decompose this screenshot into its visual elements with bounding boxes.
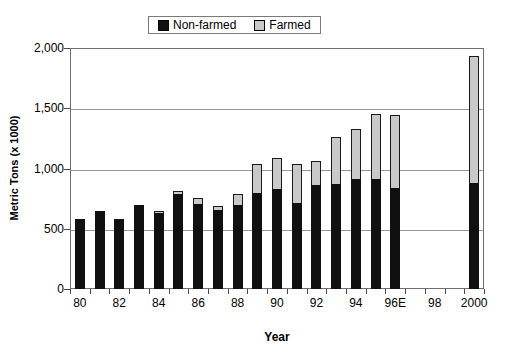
bar-81 [95, 211, 105, 289]
bar-92 [311, 161, 321, 289]
bar-segment-farmed-88 [233, 194, 243, 204]
chart-legend: Non-farmed Farmed [148, 16, 321, 34]
bar-90 [272, 158, 282, 289]
bar-segment-farmed-95 [371, 114, 381, 179]
bar-82 [114, 219, 124, 289]
bar-segment-non-farmed-86 [193, 204, 203, 289]
x-tick-mark-8 [228, 289, 229, 294]
bars-layer [70, 48, 484, 289]
x-tick-mark-15 [366, 289, 367, 294]
bar-segment-non-farmed-87 [213, 210, 223, 289]
bar-91 [292, 164, 302, 289]
x-tick-mark-9 [247, 289, 248, 294]
bar-94 [351, 129, 361, 289]
x-tick-mark-6 [188, 289, 189, 294]
bar-segment-non-farmed-95 [371, 179, 381, 289]
bar-84 [154, 211, 164, 289]
bar-segment-non-farmed-85 [173, 194, 183, 289]
x-tick-mark-3 [129, 289, 130, 294]
bar-80 [75, 219, 85, 289]
x-tick-label-80: 80 [73, 297, 86, 310]
x-tick-mark-12 [307, 289, 308, 294]
bar-segment-farmed-94 [351, 129, 361, 180]
legend-entry-non-farmed: Non-farmed [158, 19, 236, 31]
light-gray-square-icon [254, 20, 265, 31]
bar-segment-non-farmed-93 [331, 184, 341, 289]
bar-segment-farmed-90 [272, 158, 282, 189]
bar-segment-farmed-93 [331, 137, 341, 184]
bar-96E [390, 115, 400, 289]
legend-label-farmed: Farmed [269, 19, 310, 31]
y-tick-label-500: 500 [6, 223, 64, 235]
y-tick-label-0: 0 [6, 283, 64, 295]
x-tick-mark-1 [90, 289, 91, 294]
x-tick-mark-7 [208, 289, 209, 294]
y-tick-mark-1500 [64, 108, 70, 109]
bar-83 [134, 205, 144, 289]
x-axis-title: Year [264, 330, 289, 344]
stacked-bar-chart: Non-farmed Farmed 05001,0001,5002,000 Me… [0, 0, 506, 359]
x-tick-label-92: 92 [310, 297, 323, 310]
bar-segment-farmed-96E [390, 115, 400, 187]
y-tick-mark-500 [64, 229, 70, 230]
bar-segment-non-farmed-89 [252, 193, 262, 289]
bar-segment-non-farmed-90 [272, 189, 282, 289]
bar-segment-non-farmed-92 [311, 185, 321, 289]
bar-95 [371, 114, 381, 289]
bar-85 [173, 191, 183, 289]
bar-86 [193, 198, 203, 289]
bar-segment-farmed-2000 [469, 56, 479, 183]
black-square-icon [158, 20, 169, 31]
x-tick-mark-10 [267, 289, 268, 294]
bar-segment-non-farmed-91 [292, 203, 302, 289]
x-tick-mark-19 [445, 289, 446, 294]
x-tick-label-86: 86 [191, 297, 204, 310]
x-tick-mark-13 [326, 289, 327, 294]
bar-89 [252, 164, 262, 289]
bar-87 [213, 206, 223, 289]
bar-segment-non-farmed-83 [134, 205, 144, 289]
y-tick-mark-1000 [64, 169, 70, 170]
bar-segment-non-farmed-82 [114, 220, 124, 289]
x-tick-label-82: 82 [113, 297, 126, 310]
x-tick-label-88: 88 [231, 297, 244, 310]
legend-label-non-farmed: Non-farmed [173, 19, 236, 31]
x-tick-mark-0 [70, 289, 71, 294]
bar-2000 [469, 56, 479, 289]
x-tick-mark-5 [169, 289, 170, 294]
bar-88 [233, 194, 243, 289]
x-tick-mark-18 [425, 289, 426, 294]
bar-segment-farmed-92 [311, 161, 321, 185]
x-tick-label-94: 94 [349, 297, 362, 310]
bar-segment-non-farmed-2000 [469, 183, 479, 289]
x-tick-mark-16 [385, 289, 386, 294]
x-tick-mark-2 [109, 289, 110, 294]
x-tick-label-84: 84 [152, 297, 165, 310]
bar-segment-non-farmed-88 [233, 205, 243, 289]
y-tick-mark-2000 [64, 48, 70, 49]
x-tick-label-96E: 96E [385, 297, 406, 310]
x-tick-mark-14 [346, 289, 347, 294]
y-axis-title: Metric Tons (x 1000) [8, 116, 20, 221]
legend-entry-farmed: Farmed [254, 19, 310, 31]
bar-segment-farmed-89 [252, 164, 262, 192]
x-tick-label-2000: 2000 [461, 297, 488, 310]
x-tick-mark-17 [405, 289, 406, 294]
bar-segment-non-farmed-94 [351, 179, 361, 289]
bar-segment-non-farmed-84 [154, 213, 164, 289]
bar-segment-non-farmed-96E [390, 188, 400, 289]
bar-segment-farmed-91 [292, 164, 302, 204]
x-tick-label-90: 90 [270, 297, 283, 310]
y-tick-label-2000: 2,000 [6, 42, 64, 54]
bar-segment-non-farmed-80 [75, 219, 85, 289]
y-tick-label-1500: 1,500 [6, 102, 64, 114]
x-tick-mark-21 [484, 289, 485, 294]
x-tick-label-98: 98 [428, 297, 441, 310]
x-tick-mark-11 [287, 289, 288, 294]
x-tick-mark-20 [464, 289, 465, 294]
bar-segment-non-farmed-81 [95, 211, 105, 289]
bar-93 [331, 137, 341, 289]
x-tick-mark-4 [149, 289, 150, 294]
